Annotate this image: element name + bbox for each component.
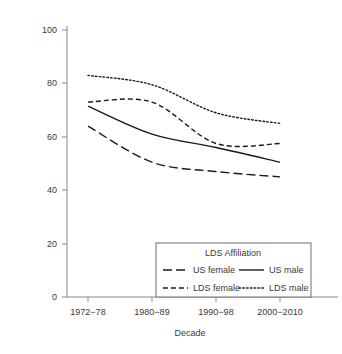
series-group [88,75,280,176]
y-tick-label-20: 20 [47,239,57,249]
x-tick-label-0: 1972−78 [70,307,105,317]
y-tick-label-80: 80 [47,78,57,88]
legend: LDS Affiliation US female US male LDS fe… [156,243,311,297]
x-axis-title: Decade [174,328,205,338]
series-line-us-male [88,106,280,162]
y-tick-label-100: 100 [42,25,57,35]
y-tick-label-60: 60 [47,132,57,142]
y-tick-label-40: 40 [47,185,57,195]
series-line-us-female [88,126,280,177]
series-line-lds-female [88,99,280,147]
x-tick-label-3: 2000−2010 [257,307,302,317]
x-tick-label-1: 1980−89 [134,307,169,317]
y-tick-label-0: 0 [52,292,57,302]
legend-label-us-female: US female [193,265,235,275]
legend-label-us-male: US male [269,265,304,275]
legend-title: LDS Affiliation [205,248,261,258]
legend-label-lds-female: LDS female [193,283,240,293]
chart-container: 100 80 60 40 20 0 1972−78 1980−89 1990−9… [0,0,342,354]
legend-label-lds-male: LDS male [269,283,309,293]
line-chart: 100 80 60 40 20 0 1972−78 1980−89 1990−9… [0,0,342,354]
x-tick-label-2: 1990−98 [198,307,233,317]
